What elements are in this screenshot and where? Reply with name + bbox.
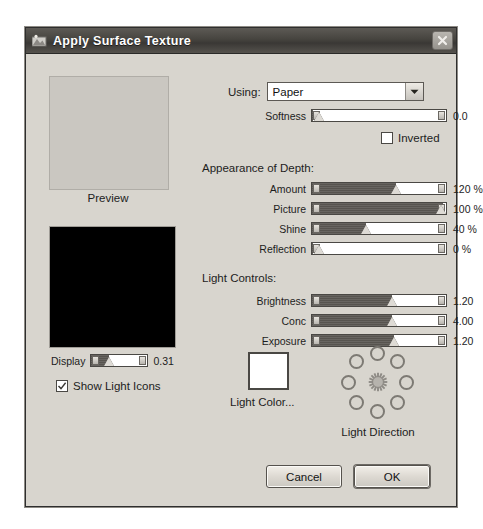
texture-icon — [32, 34, 47, 48]
shine-label: Shine — [228, 223, 306, 235]
light-direction-group: Light Direction — [331, 342, 425, 438]
picture-value: 100 % — [453, 203, 483, 215]
softness-slider-right-arrow[interactable] — [438, 111, 445, 120]
checkmark-icon — [57, 381, 67, 391]
brightness-slider-left-arrow[interactable] — [313, 296, 320, 305]
brightness-slider-thumb[interactable] — [387, 297, 397, 306]
softness-value: 0.0 — [453, 110, 468, 122]
light-direction-dot-5[interactable] — [349, 395, 364, 410]
light-direction-dot-1[interactable] — [390, 354, 405, 369]
preview-thumbnail[interactable] — [49, 76, 169, 190]
shine-value: 40 % — [453, 223, 477, 235]
display-slider[interactable] — [90, 354, 148, 367]
display-label: Display — [51, 355, 85, 367]
amount-slider[interactable] — [311, 182, 447, 195]
brightness-slider-right-arrow[interactable] — [438, 296, 445, 305]
light-direction-label: Light Direction — [331, 426, 425, 438]
light-direction-dot-6[interactable] — [341, 375, 356, 390]
reflection-slider-thumb[interactable] — [314, 245, 324, 254]
brightness-slider[interactable] — [311, 294, 447, 307]
using-dropdown[interactable]: Paper — [267, 82, 424, 101]
close-icon[interactable] — [432, 31, 453, 50]
light-color-swatch[interactable] — [248, 352, 289, 390]
light-direction-dot-2[interactable] — [399, 375, 414, 390]
light-color-group: Light Color... — [236, 352, 301, 408]
conc-label: Conc — [228, 315, 306, 327]
exposure-slider-right-arrow[interactable] — [438, 336, 445, 345]
appearance-heading: Appearance of Depth: — [202, 162, 314, 174]
light-direction-dot-7[interactable] — [349, 354, 364, 369]
conc-value: 4.00 — [453, 315, 473, 327]
picture-slider[interactable] — [311, 202, 447, 215]
amount-value: 120 % — [453, 183, 483, 195]
exposure-slider-left-arrow[interactable] — [313, 336, 320, 345]
sun-icon[interactable] — [368, 372, 388, 392]
display-slider-thumb[interactable] — [104, 357, 114, 366]
show-light-icons-label: Show Light Icons — [73, 380, 161, 392]
cancel-button[interactable]: Cancel — [266, 465, 342, 488]
shine-slider[interactable] — [311, 222, 447, 235]
exposure-slider-thumb[interactable] — [389, 337, 399, 346]
show-light-icons-row: Show Light Icons — [56, 380, 161, 392]
shine-slider-right-arrow[interactable] — [438, 224, 445, 233]
amount-slider-right-arrow[interactable] — [438, 184, 445, 193]
exposure-label: Exposure — [228, 335, 306, 347]
softness-slider-thumb[interactable] — [314, 112, 324, 121]
amount-row: Amount 120 % — [228, 182, 483, 195]
brightness-row: Brightness 1.20 — [228, 294, 473, 307]
softness-row: Softness 0.0 — [228, 109, 468, 122]
using-row: Using: Paper — [228, 82, 424, 101]
preview-texture-canvas — [50, 77, 168, 189]
picture-label: Picture — [228, 203, 306, 215]
reflection-value: 0 % — [453, 243, 471, 255]
conc-row: Conc 4.00 — [228, 314, 473, 327]
reflection-slider-right-arrow[interactable] — [438, 244, 445, 253]
ok-button[interactable]: OK — [354, 465, 430, 488]
show-light-icons-checkbox[interactable] — [56, 380, 68, 392]
light-controls-heading: Light Controls: — [202, 272, 276, 284]
picture-row: Picture 100 % — [228, 202, 483, 215]
title-bar[interactable]: Apply Surface Texture — [26, 28, 456, 54]
display-value: 0.31 — [153, 355, 173, 367]
shine-slider-thumb[interactable] — [361, 225, 371, 234]
using-label: Using: — [228, 86, 261, 98]
conc-slider[interactable] — [311, 314, 447, 327]
inverted-checkbox[interactable] — [381, 132, 393, 144]
conc-slider-left-arrow[interactable] — [313, 316, 320, 325]
reflection-label: Reflection — [228, 243, 306, 255]
light-direction-dot-0[interactable] — [370, 346, 385, 361]
sphere-canvas — [50, 227, 175, 347]
light-direction-dot-4[interactable] — [370, 404, 385, 419]
amount-slider-thumb[interactable] — [391, 185, 401, 194]
inverted-row: Inverted — [381, 132, 440, 144]
light-direction-dot-3[interactable] — [390, 395, 405, 410]
dialog-body: Preview Display 0.31 Show Light Icons — [26, 54, 456, 506]
light-direction-ring — [331, 342, 423, 420]
light-position-sphere[interactable] — [49, 226, 176, 348]
display-slider-right-arrow[interactable] — [139, 356, 146, 365]
picture-slider-left-arrow[interactable] — [313, 204, 320, 213]
reflection-row: Reflection 0 % — [228, 242, 471, 255]
chevron-down-icon[interactable] — [405, 83, 423, 100]
light-color-label: Light Color... — [230, 396, 295, 408]
display-slider-row: Display 0.31 — [51, 354, 174, 367]
brightness-value: 1.20 — [453, 295, 473, 307]
brightness-label: Brightness — [228, 295, 306, 307]
softness-label: Softness — [228, 110, 306, 122]
reflection-slider[interactable] — [311, 242, 447, 255]
dialog-button-row: Cancel OK — [266, 465, 430, 488]
shine-row: Shine 40 % — [228, 222, 477, 235]
conc-slider-right-arrow[interactable] — [438, 316, 445, 325]
exposure-value: 1.20 — [453, 335, 473, 347]
window-title: Apply Surface Texture — [53, 34, 191, 48]
amount-slider-left-arrow[interactable] — [313, 184, 320, 193]
apply-surface-texture-dialog: Apply Surface Texture Preview Display — [25, 27, 457, 507]
conc-slider-thumb[interactable] — [387, 317, 397, 326]
amount-label: Amount — [228, 183, 306, 195]
softness-slider[interactable] — [311, 109, 447, 122]
using-value: Paper — [268, 86, 405, 98]
picture-slider-thumb[interactable] — [436, 205, 446, 214]
inverted-label: Inverted — [398, 132, 440, 144]
display-slider-left-arrow[interactable] — [92, 356, 99, 365]
shine-slider-left-arrow[interactable] — [313, 224, 320, 233]
